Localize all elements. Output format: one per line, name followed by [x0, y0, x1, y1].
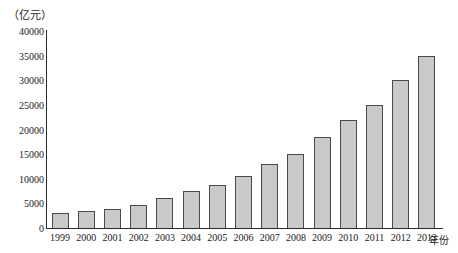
x-axis-tick: 2010: [338, 232, 358, 243]
plot-area: [47, 31, 440, 228]
x-axis-tick: 2001: [103, 232, 123, 243]
y-axis-tick: 5000: [2, 198, 44, 209]
bar: [392, 80, 409, 228]
x-axis-tick-labels: 年份 1999200020012002200320042005200620072…: [0, 232, 458, 252]
x-axis-tick: 2002: [129, 232, 149, 243]
y-axis-tick: 10000: [2, 173, 44, 184]
bar: [314, 137, 331, 228]
y-axis-tick-labels: 0500010000150002000025000300003500040000: [0, 0, 44, 253]
bar: [78, 211, 95, 228]
x-axis-tick: 2004: [181, 232, 201, 243]
x-axis-tick: 2009: [312, 232, 332, 243]
x-axis-tick: 2003: [155, 232, 175, 243]
x-axis-tick: 2006: [234, 232, 254, 243]
bar-chart: （亿元） 05000100001500020000250003000035000…: [0, 0, 458, 253]
y-axis-tick: 20000: [2, 124, 44, 135]
x-axis-tick: 2000: [76, 232, 96, 243]
bar: [156, 198, 173, 228]
y-axis-tick: 30000: [2, 75, 44, 86]
x-axis-tick: 2007: [260, 232, 280, 243]
x-axis-line: [46, 228, 443, 229]
bar: [104, 209, 121, 228]
bar: [209, 185, 226, 228]
bar: [418, 56, 435, 228]
x-axis-tick: 2005: [207, 232, 227, 243]
bar: [183, 191, 200, 228]
x-axis-tick: 2011: [365, 232, 385, 243]
x-axis-tick: 2013: [417, 232, 437, 243]
y-axis-tick: 40000: [2, 26, 44, 37]
x-axis-tick: 2012: [391, 232, 411, 243]
x-axis-tick: 1999: [50, 232, 70, 243]
y-axis-tick: 25000: [2, 99, 44, 110]
bar: [52, 213, 69, 228]
bar: [366, 105, 383, 228]
bar: [340, 120, 357, 228]
x-axis-tick: 2008: [286, 232, 306, 243]
y-axis-tick: 15000: [2, 149, 44, 160]
bar: [287, 154, 304, 228]
bar: [130, 205, 147, 228]
bar: [261, 164, 278, 228]
bar: [235, 176, 252, 228]
y-axis-tick: 35000: [2, 50, 44, 61]
